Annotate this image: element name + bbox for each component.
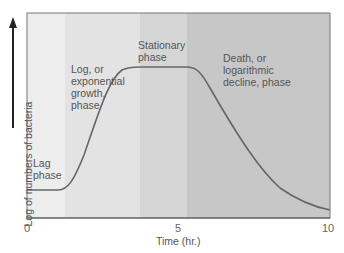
death-band — [187, 13, 330, 218]
chart-canvas — [0, 0, 344, 253]
stationary-phase-label: Stationary phase — [138, 39, 185, 63]
log-band — [65, 13, 140, 218]
log-phase-label: Log, or exponential growth, phase — [71, 63, 125, 111]
x-tick-10: 10 — [322, 222, 334, 234]
up-arrow-icon — [9, 17, 17, 28]
death-phase-label: Death, or logarithmic decline, phase — [223, 52, 291, 88]
lag-phase-label: Lag phase — [33, 157, 62, 181]
y-axis-label: Log of numbers of bacteria — [22, 84, 34, 244]
x-tick-0: 0 — [24, 222, 30, 234]
x-tick-5: 5 — [175, 222, 181, 234]
x-axis-label: Time (hr.) — [156, 235, 201, 247]
